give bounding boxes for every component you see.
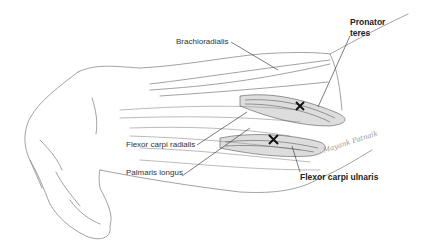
leader-palmaris-longus [182,128,250,176]
leader-brachioradialis [231,42,278,70]
label-brachioradialis: Brachioradialis [176,38,228,46]
leader-pronator-teres [318,36,350,107]
label-flexor-carpi-ulnaris: Flexor carpi ulnaris [300,173,378,182]
label-pronator-teres-line2: teres [350,29,370,38]
label-pronator-teres-line1: Pronator [350,18,385,27]
label-palmaris-longus: Palmaris longus [126,169,183,177]
label-flexor-carpi-radialis: Flexor carpi radialis [126,141,195,149]
hand-outline [25,72,111,239]
